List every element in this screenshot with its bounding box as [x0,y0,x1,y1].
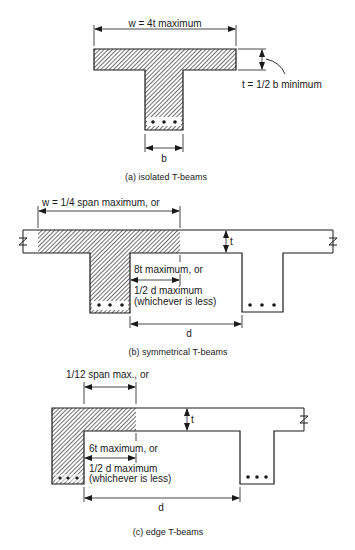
caption-a: (a) isolated T-beams [125,172,207,182]
overhang-label: 8t maximum, or [134,264,204,275]
rebar-icon [246,475,268,479]
overhang-label: 1/2 d maximum [134,285,202,296]
width-label: 1/12 span max., or [66,369,149,380]
t-beam-diagram: w = 4t maximum t = 1/2 b minimum b (a) i… [0,0,355,550]
figure-c: 1/12 span max., or t 6t maximum, or 1/2 … [52,369,308,537]
width-label: w = 4t maximum [127,18,201,29]
overhang-label: 6t maximum, or [89,443,159,454]
width-label: w = 1/4 span maximum, or [41,197,160,208]
caption-c: (c) edge T-beams [133,527,204,537]
spacing-label: d [158,502,164,513]
rebar-icon [248,303,276,307]
caption-b: (b) symmetrical T-beams [129,347,228,357]
thickness-label: t [230,236,233,247]
overhang-label: (whichever is less) [134,296,216,307]
spacing-label: d [186,328,192,339]
overhang-label: (whichever is less) [89,473,171,484]
figure-a: w = 4t maximum t = 1/2 b minimum b (a) i… [94,18,322,182]
thickness-label: t = 1/2 b minimum [242,79,322,90]
figure-b: w = 1/4 span maximum, or t 8t maximum, o… [19,197,337,357]
thickness-label: t [191,414,194,425]
web-width-label: b [161,153,167,164]
